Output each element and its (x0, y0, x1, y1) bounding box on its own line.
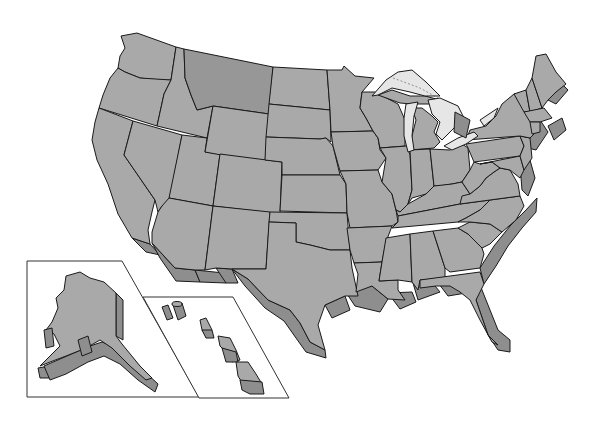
state-kansas[interactable] (280, 175, 347, 213)
state-connecticut[interactable] (530, 122, 540, 134)
state-montana[interactable] (184, 49, 273, 114)
state-south-dakota[interactable] (266, 104, 331, 142)
state-new-mexico[interactable] (205, 206, 270, 270)
us-map (0, 0, 603, 422)
state-colorado[interactable] (213, 154, 282, 214)
state-north-dakota[interactable] (269, 67, 330, 110)
